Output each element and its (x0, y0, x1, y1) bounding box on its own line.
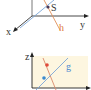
label-h: h (59, 22, 64, 33)
z-axis-arrow-icon (30, 52, 34, 57)
label-g: g (66, 61, 71, 72)
blue-point (42, 76, 46, 80)
label-z: z (25, 51, 30, 62)
label-y: y (80, 19, 85, 30)
x-axis (15, 16, 32, 30)
blue-line (20, 0, 54, 28)
red-point (45, 63, 49, 67)
label-S: S (51, 2, 57, 13)
y-axis-arrow-icon (84, 14, 89, 18)
label-x: x (6, 26, 11, 37)
bottom-panel (30, 52, 91, 90)
plane-background (32, 56, 88, 88)
point-S (46, 5, 49, 8)
diagram: S h y x z g (0, 0, 91, 90)
horizontal-axis-arrow-icon (86, 86, 91, 90)
